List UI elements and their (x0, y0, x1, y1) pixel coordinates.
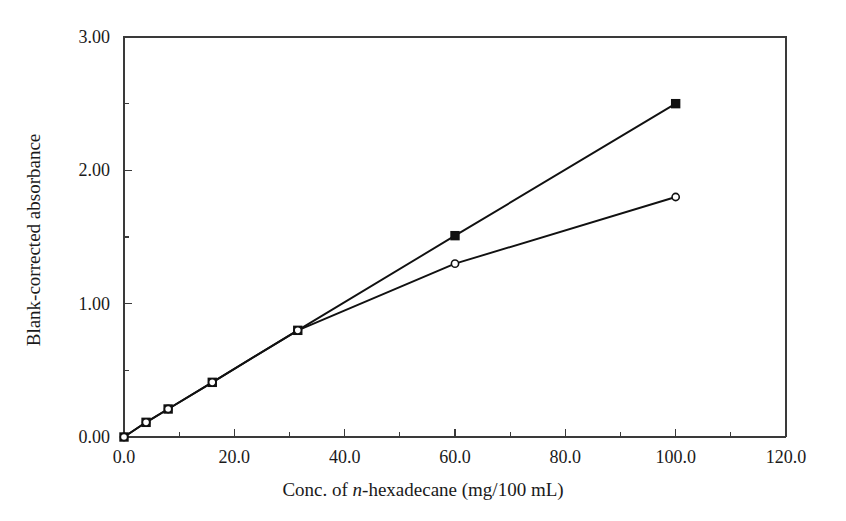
data-point-open-circle (142, 419, 149, 426)
y-tick-label: 0.00 (79, 427, 111, 447)
data-point-open-circle (120, 433, 127, 440)
data-point-open-circle (294, 327, 301, 334)
x-tick-label: 120.0 (766, 447, 807, 467)
x-tick-label: 60.0 (439, 447, 471, 467)
x-axis-tick-labels: 0.020.040.060.080.0100.0120.0 (113, 447, 807, 467)
y-axis-tick-labels: 0.001.002.003.00 (79, 27, 111, 447)
x-tick-label: 0.0 (113, 447, 136, 467)
x-tick-label: 80.0 (550, 447, 582, 467)
series-line (124, 197, 676, 437)
y-tick-label: 3.00 (79, 27, 111, 47)
chart-plot: 0.020.040.060.080.0100.0120.0 0.001.002.… (0, 0, 846, 521)
data-point-open-circle (165, 405, 172, 412)
y-tick-label: 2.00 (79, 160, 111, 180)
x-axis-major-ticks (124, 429, 786, 437)
y-axis-title: Blank-corrected absorbance (23, 134, 44, 347)
x-tick-label: 40.0 (329, 447, 361, 467)
y-tick-label: 1.00 (79, 294, 111, 314)
figure-canvas: 0.020.040.060.080.0100.0120.0 0.001.002.… (0, 0, 846, 521)
data-series-layer (120, 100, 680, 441)
data-series (120, 100, 680, 441)
data-series (120, 193, 679, 440)
data-point-filled-square (672, 100, 680, 108)
data-point-open-circle (209, 379, 216, 386)
x-tick-label: 20.0 (219, 447, 251, 467)
x-axis-title: Conc. of n-hexadecane (mg/100 mL) (282, 479, 563, 501)
series-line (124, 104, 676, 437)
x-tick-label: 100.0 (655, 447, 696, 467)
data-point-open-circle (672, 193, 679, 200)
data-point-open-circle (451, 260, 458, 267)
data-point-filled-square (451, 232, 459, 240)
